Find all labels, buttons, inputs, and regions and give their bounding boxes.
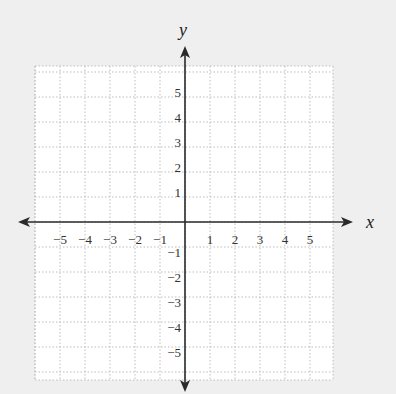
y-tick-label: 1 [175,185,182,200]
x-tick-label: −5 [53,232,67,247]
x-tick-label: 1 [207,232,214,247]
x-tick-label: 5 [307,232,314,247]
y-tick-label: −4 [167,320,181,335]
coordinate-plane: x y −5−4−3−2−112345 54321−1−2−3−4−5 [0,0,396,394]
y-tick-label: 4 [175,110,182,125]
y-tick-label: 2 [175,160,182,175]
x-tick-label: −1 [153,232,167,247]
y-tick-label: −1 [167,245,181,260]
y-axis-label: y [177,20,187,40]
y-tick-label: 3 [175,135,182,150]
grid-background [35,66,333,380]
y-tick-label: −2 [167,270,181,285]
x-axis-label: x [365,212,374,232]
y-tick-label: 5 [175,85,182,100]
y-tick-label: −5 [167,345,181,360]
y-tick-label: −3 [167,295,181,310]
x-tick-label: −3 [103,232,117,247]
x-tick-label: 4 [282,232,289,247]
x-tick-label: −4 [78,232,92,247]
x-tick-label: 3 [257,232,264,247]
x-tick-label: 2 [232,232,239,247]
x-tick-label: −2 [128,232,142,247]
